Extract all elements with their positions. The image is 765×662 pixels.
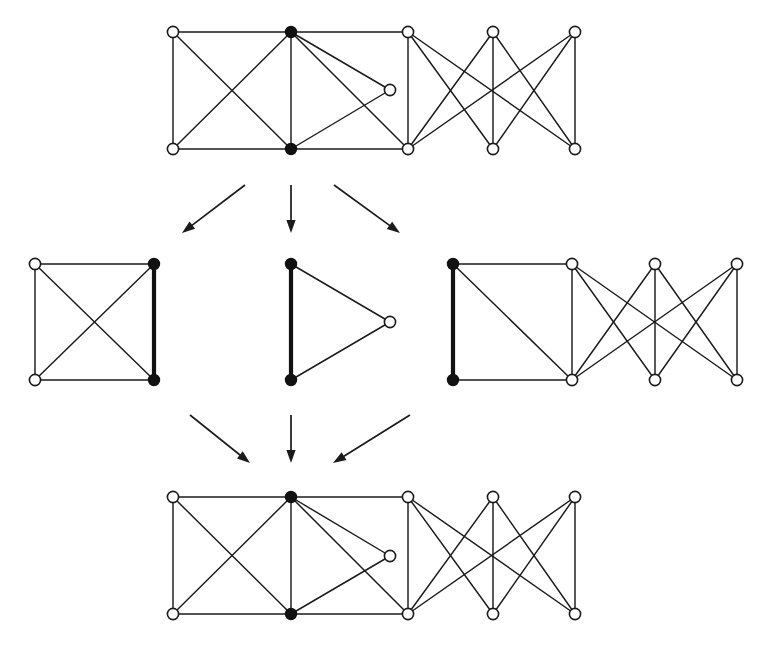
graph-node-filled: [286, 259, 297, 270]
graph-decomposition-figure: [0, 0, 765, 662]
graph-node-filled: [149, 259, 160, 270]
graph-node-filled: [286, 609, 297, 620]
graph-node-open: [384, 316, 395, 327]
graph-node-open: [29, 258, 40, 269]
graph-node-open: [487, 608, 498, 619]
graph-node-filled: [149, 375, 160, 386]
graph-node-filled: [286, 492, 297, 503]
graph-node-open: [569, 608, 580, 619]
graph-node-open: [402, 26, 413, 37]
graph-node-open: [167, 491, 178, 502]
graph-node-filled: [286, 27, 297, 38]
graph-node-open: [384, 84, 395, 95]
graph-node-open: [402, 143, 413, 154]
graph-node-open: [487, 143, 498, 154]
graph-node-open: [402, 491, 413, 502]
graph-node-open: [487, 491, 498, 502]
graph-node-open: [566, 258, 577, 269]
graph-node-filled: [448, 259, 459, 270]
figure-background: [0, 0, 765, 662]
graph-node-open: [402, 608, 413, 619]
graph-node-open: [487, 26, 498, 37]
graph-node-open: [569, 26, 580, 37]
graph-node-open: [29, 374, 40, 385]
graph-node-open: [167, 608, 178, 619]
graph-node-open: [167, 143, 178, 154]
graph-node-open: [731, 258, 742, 269]
graph-node-open: [566, 374, 577, 385]
graph-node-open: [384, 550, 395, 561]
graph-node-filled: [286, 375, 297, 386]
graph-node-open: [569, 491, 580, 502]
graph-node-open: [569, 143, 580, 154]
graph-node-open: [731, 374, 742, 385]
graph-node-filled: [286, 144, 297, 155]
graph-node-open: [649, 374, 660, 385]
graph-node-filled: [448, 375, 459, 386]
figure-container: [0, 0, 765, 662]
graph-node-open: [167, 26, 178, 37]
graph-node-open: [649, 258, 660, 269]
